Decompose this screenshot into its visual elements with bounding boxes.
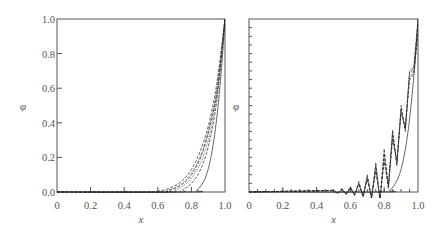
x-tick-label: 0.8 — [185, 200, 198, 211]
x-tick-label: 0.2 — [84, 200, 97, 211]
x-tick-label: 0 — [54, 200, 59, 211]
y-axis-label: φ — [20, 100, 26, 112]
plot-frame — [57, 19, 225, 192]
left-panel: 00.20.40.60.81.00.00.20.40.60.81.0xφ — [20, 14, 232, 225]
y-axis-label: φ — [233, 100, 239, 112]
y-tick-label: 0.0 — [42, 187, 55, 198]
data-series — [249, 19, 418, 192]
data-series — [249, 29, 418, 199]
data-series — [57, 19, 225, 192]
data-series — [57, 19, 225, 192]
plot-frame — [249, 19, 418, 192]
right-panel: 00.20.40.60.81.0xφ — [233, 19, 425, 225]
data-series — [57, 19, 225, 192]
x-tick-label: 0.4 — [310, 200, 324, 211]
data-series — [249, 19, 418, 201]
data-series — [57, 19, 225, 192]
x-axis-label: x — [138, 213, 144, 225]
data-series — [57, 19, 225, 192]
x-tick-label: 0.2 — [276, 200, 289, 211]
figure: 00.20.40.60.81.00.00.20.40.60.81.0xφ 00.… — [0, 0, 438, 235]
y-tick-label: 0.8 — [42, 49, 55, 60]
x-tick-label: 0.6 — [151, 200, 164, 211]
data-series — [249, 35, 418, 199]
y-tick-label: 0.2 — [42, 152, 55, 163]
y-tick-label: 0.6 — [42, 83, 55, 94]
x-tick-label: 0 — [246, 200, 251, 211]
x-axis-label: x — [330, 213, 336, 225]
x-tick-label: 0.8 — [378, 200, 391, 211]
y-tick-label: 0.4 — [42, 118, 56, 129]
x-tick-label: 1.0 — [218, 200, 231, 211]
x-tick-label: 1.0 — [411, 200, 424, 211]
y-tick-label: 1.0 — [42, 14, 55, 25]
data-series — [249, 24, 418, 200]
x-tick-label: 0.6 — [344, 200, 357, 211]
x-tick-label: 0.4 — [118, 200, 132, 211]
data-series — [57, 19, 225, 192]
